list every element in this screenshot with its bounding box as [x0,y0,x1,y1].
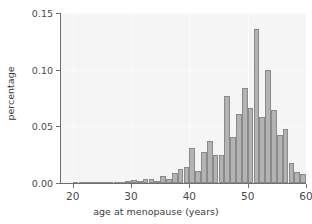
x-tick-label: 40 [183,190,196,202]
y-tick-label: 0.00 [32,178,53,189]
x-tick-mark [73,184,74,188]
y-axis-line [60,13,61,184]
y-tick-mark [56,70,60,71]
y-tick-mark [56,183,60,184]
y-tick-mark [56,13,60,14]
x-axis-line [60,183,306,184]
x-tick-mark [306,184,307,188]
y-tick-label: 0.10 [32,64,53,75]
x-tick-mark [248,184,249,188]
histogram-bars [61,13,306,183]
y-tick-mark [56,126,60,127]
y-axis-title: percentage [5,44,16,144]
y-tick-label: 0.15 [32,8,53,19]
x-tick-label: 30 [124,190,137,202]
y-tick-label: 0.05 [32,121,53,132]
plot-area [61,13,306,183]
histogram-bar [300,174,306,183]
x-axis-title: age at menopause (years) [0,206,312,217]
x-tick-mark [189,184,190,188]
x-tick-mark [131,184,132,188]
x-tick-label: 50 [241,190,254,202]
x-tick-label: 20 [66,190,79,202]
x-tick-label: 60 [299,190,312,202]
histogram-figure: 0.000.050.100.15 2030405060 percentage a… [0,0,312,224]
